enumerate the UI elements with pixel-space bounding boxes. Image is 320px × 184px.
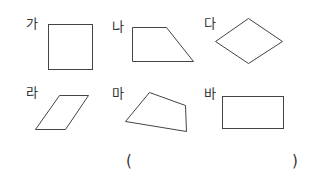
shape-ba-rectangle <box>223 97 284 129</box>
answer-field[interactable] <box>136 152 290 170</box>
shape-ra-parallelogram <box>36 96 89 130</box>
shape-ma-quadrilateral <box>126 93 187 132</box>
shape-ga-square <box>49 25 93 70</box>
answer-close-paren: ) <box>292 153 298 169</box>
shape-da-rhombus <box>216 19 283 64</box>
shape-na-trapezoid <box>133 28 194 62</box>
answer-open-paren: ( <box>126 153 132 169</box>
